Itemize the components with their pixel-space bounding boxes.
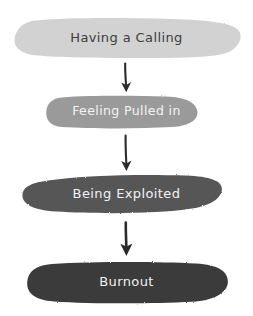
arrow-being-exploited-to-burnout xyxy=(120,223,132,257)
burnout-progression-diagram: Having a Calling Feeling Pulled in Being… xyxy=(0,0,253,316)
node-being-exploited[interactable] xyxy=(22,175,222,213)
arrow-shaft-2 xyxy=(126,136,127,164)
arrow-shaft-3 xyxy=(126,223,127,247)
diagram-canvas xyxy=(0,0,253,316)
node-burnout[interactable] xyxy=(27,262,228,303)
arrow-feeling-pulled-in-to-being-exploited xyxy=(121,136,131,172)
node-shape-being-exploited xyxy=(22,175,222,213)
node-having-a-calling[interactable] xyxy=(14,18,240,58)
node-shape-feeling-pulled-in xyxy=(46,96,197,129)
arrow-having-a-calling-to-feeling-pulled-in xyxy=(121,64,131,93)
node-shape-burnout xyxy=(27,262,228,303)
node-shape-having-a-calling xyxy=(14,18,240,58)
node-feeling-pulled-in[interactable] xyxy=(46,96,197,129)
arrow-shaft-1 xyxy=(125,64,126,86)
